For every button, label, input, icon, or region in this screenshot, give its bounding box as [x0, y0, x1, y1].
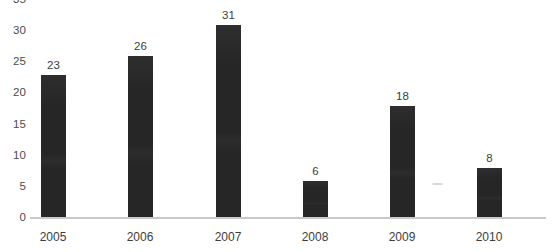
bar-2006: [128, 56, 153, 218]
bar-2009: [390, 106, 415, 218]
x-label-2005: 2005: [23, 231, 83, 244]
value-label-2005: 23: [34, 59, 74, 71]
bar-2008: [303, 181, 328, 218]
scan-artifact-speck: [432, 183, 443, 185]
bar-chart: 35 30 25 20 15 10 5 0 23 26 31 6 18 8 20…: [0, 0, 554, 252]
y-tick-label: 0: [0, 212, 26, 223]
y-tick-label: 15: [0, 119, 26, 130]
bar-2010: [477, 168, 502, 218]
x-axis-line: [30, 217, 546, 219]
y-tick-label: 35: [0, 0, 26, 5]
x-label-2008: 2008: [285, 231, 345, 244]
value-label-2010: 8: [470, 152, 510, 164]
y-tick-label: 20: [0, 87, 26, 98]
y-tick-label: 25: [0, 56, 26, 67]
x-label-2007: 2007: [198, 231, 258, 244]
y-tick-label: 10: [0, 150, 26, 161]
bar-2007: [216, 25, 241, 218]
x-label-2010: 2010: [459, 231, 519, 244]
plot-area: [30, 0, 546, 218]
y-tick-label: 30: [0, 25, 26, 36]
value-label-2009: 18: [383, 90, 423, 102]
value-label-2006: 26: [121, 40, 161, 52]
y-tick-label: 5: [0, 181, 26, 192]
value-label-2007: 31: [209, 9, 249, 21]
x-label-2009: 2009: [372, 231, 432, 244]
x-label-2006: 2006: [110, 231, 170, 244]
value-label-2008: 6: [296, 165, 336, 177]
bar-2005: [41, 75, 66, 218]
